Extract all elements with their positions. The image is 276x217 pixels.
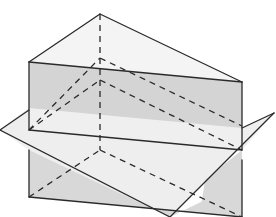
prism-plane-diagram bbox=[0, 0, 276, 217]
